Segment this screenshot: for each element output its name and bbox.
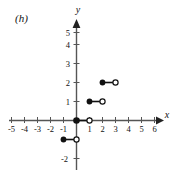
y-tick-label-3: 3 (66, 59, 70, 69)
x-tick-labels: -5 -4 -3 -2 -1 1 2 3 4 5 6 (8, 124, 157, 134)
y-tick-label-5: 5 (66, 28, 70, 38)
open-endpoint-circle (74, 137, 79, 142)
step-segment (87, 99, 106, 105)
x-tick-label-1: 1 (87, 124, 91, 134)
closed-endpoint-dot (73, 117, 80, 124)
step-segment (61, 137, 80, 143)
y-tick-label-minus2: -2 (61, 154, 68, 164)
y-axis-arrow-icon (73, 19, 81, 28)
closed-endpoint-dot (87, 99, 93, 105)
open-endpoint-circle (87, 118, 92, 123)
x-tick-label-minus5: -5 (8, 124, 15, 134)
y-tick-label-4: 4 (66, 40, 71, 50)
closed-endpoint-dot (61, 137, 67, 143)
step-segment (100, 80, 119, 86)
open-endpoint-circle (100, 99, 105, 104)
x-axis-label: x (164, 109, 170, 120)
y-tick-label-1: 1 (66, 97, 70, 107)
x-tick-label-minus3: -3 (34, 124, 41, 134)
open-endpoint-circle (113, 80, 118, 85)
y-axis (73, 19, 81, 170)
x-axis-arrow-icon (156, 117, 164, 125)
x-tick-label-minus1: -1 (60, 124, 67, 134)
step-function-figure: (h) x y -5 -4 (0, 0, 179, 179)
x-tick-label-5: 5 (139, 124, 143, 134)
plot-canvas: x y -5 -4 -3 -2 -1 1 2 3 4 5 6 (0, 0, 179, 179)
x-tick-label-minus2: -2 (47, 124, 54, 134)
y-tick-labels: -2 1 2 3 4 5 (61, 28, 71, 164)
y-tick-label-2: 2 (66, 78, 70, 88)
step-segment (73, 117, 92, 124)
x-tick-label-2: 2 (100, 124, 104, 134)
x-tick-label-3: 3 (113, 124, 117, 134)
x-tick-label-minus4: -4 (21, 124, 29, 134)
closed-endpoint-dot (100, 80, 106, 86)
x-tick-label-4: 4 (126, 124, 131, 134)
y-axis-label: y (75, 4, 81, 15)
x-tick-label-6: 6 (152, 124, 156, 134)
